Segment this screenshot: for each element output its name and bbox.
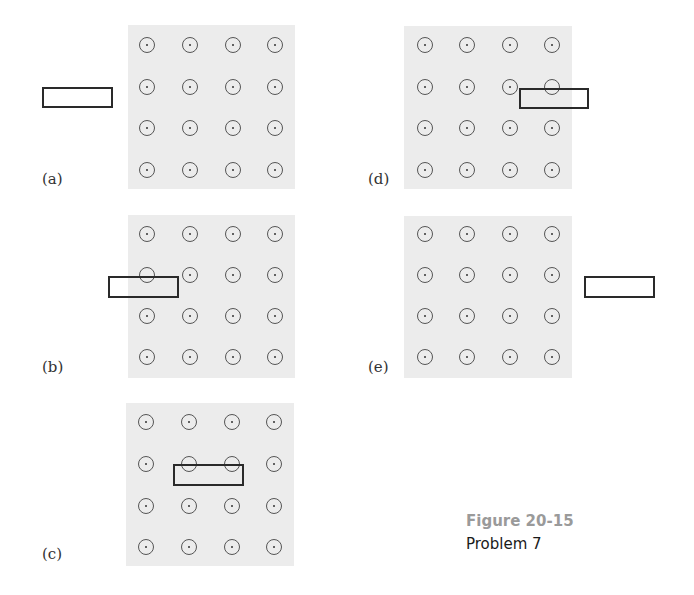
field-out-of-page-icon (502, 349, 518, 365)
field-out-of-page-icon (502, 308, 518, 324)
field-out-of-page-icon (417, 162, 433, 178)
field-out-of-page-icon (139, 226, 155, 242)
field-out-of-page-icon (417, 308, 433, 324)
field-out-of-page-icon (182, 226, 198, 242)
field-out-of-page-icon (459, 267, 475, 283)
field-out-of-page-icon (225, 349, 241, 365)
field-out-of-page-icon (417, 120, 433, 136)
panel-label-b: (b) (42, 358, 63, 376)
field-out-of-page-icon (225, 267, 241, 283)
field-out-of-page-icon (417, 79, 433, 95)
field-out-of-page-icon (267, 37, 283, 53)
field-out-of-page-icon (502, 37, 518, 53)
field-out-of-page-icon (267, 349, 283, 365)
field-out-of-page-icon (267, 120, 283, 136)
field-out-of-page-icon (181, 414, 197, 430)
field-out-of-page-icon (225, 79, 241, 95)
panel-label-d: (d) (368, 170, 389, 188)
field-out-of-page-icon (138, 539, 154, 555)
conducting-loop-d (519, 88, 589, 109)
field-out-of-page-icon (502, 79, 518, 95)
field-out-of-page-icon (139, 79, 155, 95)
panel-label-a: (a) (42, 170, 63, 188)
panel-label-e: (e) (368, 358, 389, 376)
field-out-of-page-icon (459, 162, 475, 178)
panel-label-c: (c) (42, 545, 62, 563)
field-out-of-page-icon (417, 267, 433, 283)
field-out-of-page-icon (459, 37, 475, 53)
field-out-of-page-icon (266, 414, 282, 430)
field-out-of-page-icon (139, 162, 155, 178)
field-out-of-page-icon (138, 414, 154, 430)
field-out-of-page-icon (266, 539, 282, 555)
field-out-of-page-icon (544, 37, 560, 53)
field-out-of-page-icon (182, 267, 198, 283)
field-out-of-page-icon (225, 162, 241, 178)
field-out-of-page-icon (544, 120, 560, 136)
field-out-of-page-icon (139, 37, 155, 53)
field-out-of-page-icon (266, 456, 282, 472)
field-out-of-page-icon (459, 349, 475, 365)
field-out-of-page-icon (181, 539, 197, 555)
field-out-of-page-icon (182, 308, 198, 324)
field-out-of-page-icon (502, 162, 518, 178)
conducting-loop-b (108, 276, 179, 298)
field-out-of-page-icon (225, 120, 241, 136)
field-out-of-page-icon (267, 162, 283, 178)
field-out-of-page-icon (502, 226, 518, 242)
field-out-of-page-icon (417, 37, 433, 53)
conducting-loop-a (42, 87, 113, 108)
field-out-of-page-icon (225, 226, 241, 242)
field-out-of-page-icon (267, 308, 283, 324)
field-out-of-page-icon (139, 308, 155, 324)
field-out-of-page-icon (139, 120, 155, 136)
field-out-of-page-icon (182, 349, 198, 365)
field-out-of-page-icon (182, 79, 198, 95)
field-out-of-page-icon (267, 267, 283, 283)
field-out-of-page-icon (502, 120, 518, 136)
field-out-of-page-icon (267, 79, 283, 95)
field-out-of-page-icon (138, 498, 154, 514)
field-out-of-page-icon (224, 414, 240, 430)
field-out-of-page-icon (182, 162, 198, 178)
field-out-of-page-icon (459, 308, 475, 324)
conducting-loop-e (584, 276, 655, 298)
field-out-of-page-icon (459, 79, 475, 95)
field-out-of-page-icon (417, 226, 433, 242)
field-out-of-page-icon (224, 498, 240, 514)
field-out-of-page-icon (544, 226, 560, 242)
figure-subtitle: Problem 7 (466, 535, 542, 553)
conducting-loop-c (173, 464, 244, 486)
figure-title: Figure 20-15 (466, 512, 574, 530)
field-out-of-page-icon (459, 226, 475, 242)
field-out-of-page-icon (181, 498, 197, 514)
field-out-of-page-icon (225, 37, 241, 53)
field-out-of-page-icon (417, 349, 433, 365)
field-out-of-page-icon (459, 120, 475, 136)
field-out-of-page-icon (266, 498, 282, 514)
field-out-of-page-icon (138, 456, 154, 472)
field-out-of-page-icon (139, 349, 155, 365)
field-out-of-page-icon (544, 267, 560, 283)
field-out-of-page-icon (502, 267, 518, 283)
field-out-of-page-icon (544, 349, 560, 365)
field-out-of-page-icon (544, 162, 560, 178)
field-out-of-page-icon (544, 308, 560, 324)
field-out-of-page-icon (225, 308, 241, 324)
field-out-of-page-icon (182, 120, 198, 136)
field-out-of-page-icon (224, 539, 240, 555)
field-out-of-page-icon (267, 226, 283, 242)
field-out-of-page-icon (182, 37, 198, 53)
